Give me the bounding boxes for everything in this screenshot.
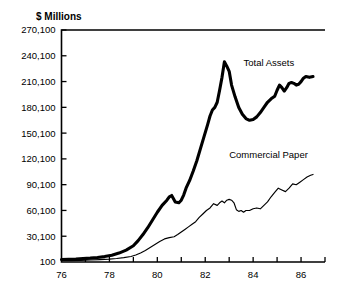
y-axis-title-group: $ Millions <box>36 11 82 22</box>
y-tick-label: 270,100 <box>21 24 55 35</box>
y-tick-label: 240,100 <box>21 50 55 61</box>
x-tick-label: 82 <box>200 269 211 280</box>
x-axis-tick-labels: 767880828486 <box>56 269 306 280</box>
x-tick-label: 84 <box>248 269 259 280</box>
y-tick-label: 90,100 <box>26 179 55 190</box>
y-tick-label: 150,100 <box>21 128 55 139</box>
chart-container: $ Millions 10030,10060,10090,100120,1001… <box>0 0 350 289</box>
y-axis-tick-labels: 10030,10060,10090,100120,100150,100180,1… <box>21 24 55 267</box>
y-tick-label: 100 <box>40 256 56 267</box>
x-tick-label: 80 <box>152 269 163 280</box>
y-tick-label: 210,100 <box>21 76 55 87</box>
y-tick-label: 30,100 <box>26 231 55 242</box>
data-series-group <box>62 62 314 261</box>
y-tick-label: 120,100 <box>21 153 55 164</box>
series-label-total-assets: Total Assets <box>244 57 295 68</box>
y-axis-title: $ Millions <box>36 11 82 22</box>
series-label-commercial-paper: Commercial Paper <box>229 149 308 160</box>
series-line-total-assets <box>62 62 314 260</box>
x-tick-label: 76 <box>56 269 67 280</box>
x-tick-label: 86 <box>296 269 307 280</box>
y-tick-label: 180,100 <box>21 102 55 113</box>
y-tick-label: 60,100 <box>26 205 55 216</box>
line-chart: $ Millions 10030,10060,10090,100120,1001… <box>0 0 350 289</box>
x-tick-label: 78 <box>104 269 115 280</box>
